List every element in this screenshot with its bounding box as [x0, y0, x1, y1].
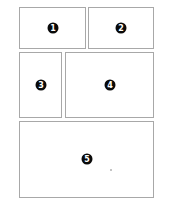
- number-badge-1: 1: [48, 23, 59, 34]
- panel-5: 5: [19, 121, 154, 198]
- number-badge-2: 2: [116, 23, 127, 34]
- number-badge-4: 4: [105, 80, 116, 91]
- panel-1: 1: [19, 7, 86, 49]
- number-badge-3: 3: [36, 80, 47, 91]
- marker-dot: [110, 169, 112, 171]
- panel-2: 2: [88, 7, 154, 49]
- number-badge-5: 5: [82, 154, 93, 165]
- panel-3: 3: [19, 52, 62, 118]
- panel-4: 4: [65, 52, 154, 118]
